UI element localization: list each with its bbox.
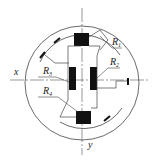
top-gauge: [74, 33, 89, 46]
x-axis-label: x: [13, 66, 19, 77]
leader-r3: [38, 77, 69, 82]
leader-r2: [97, 68, 120, 78]
center-left-gauge: [69, 67, 76, 90]
label-r3: R3: [42, 65, 52, 77]
tab-bottom-right: [104, 116, 110, 121]
top-wire: [89, 30, 108, 50]
right-tab-wire: [97, 81, 128, 88]
left-tab-wire: [45, 55, 69, 63]
center-right-gauge: [90, 67, 97, 90]
label-r2: R2: [109, 56, 119, 68]
strain-gauge-diagram: R1 R2 R3 R4 x y: [0, 0, 158, 165]
label-r1: R1: [111, 36, 121, 48]
y-axis-label: y: [87, 139, 93, 150]
bottom-gauge: [76, 111, 91, 124]
leader-r4: [38, 97, 78, 112]
label-r4: R4: [42, 85, 52, 97]
